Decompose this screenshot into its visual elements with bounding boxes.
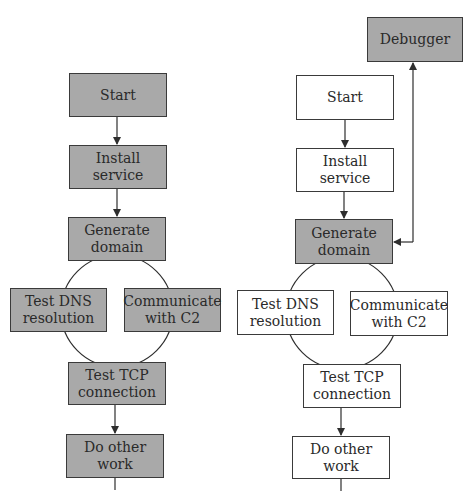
node-label-line1: Install	[323, 153, 368, 170]
left-node-generate-domain: Generate domain	[68, 217, 166, 261]
node-label-line1: Install	[96, 150, 141, 167]
node-label-line1: Do other	[84, 439, 146, 456]
right-node-debugger: Debugger	[367, 17, 463, 62]
node-label-line2: connection	[313, 386, 391, 403]
node-label-line2: with C2	[145, 310, 200, 327]
node-label-line1: Generate	[311, 225, 377, 242]
node-label: Debugger	[380, 31, 450, 48]
right-node-communicate-c2: Communicate with C2	[350, 291, 448, 336]
node-label-line2: service	[93, 167, 144, 184]
left-node-start: Start	[69, 73, 167, 117]
node-label-line2: work	[97, 456, 133, 473]
node-label-line1: Test DNS	[252, 296, 319, 313]
node-label-line1: Test TCP	[85, 367, 148, 384]
node-label-line1: Test DNS	[25, 293, 92, 310]
right-node-test-tcp: Test TCP connection	[303, 364, 401, 408]
node-label-line2: resolution	[23, 310, 95, 327]
left-node-do-other-work: Do other work	[66, 434, 164, 478]
right-node-generate-domain: Generate domain	[295, 219, 393, 264]
left-node-install-service: Install service	[69, 145, 167, 189]
node-label-line2: with C2	[371, 314, 426, 331]
node-label-line2: domain	[91, 239, 144, 256]
left-node-test-dns: Test DNS resolution	[10, 288, 107, 332]
left-node-communicate-c2: Communicate with C2	[124, 288, 221, 332]
right-node-test-dns: Test DNS resolution	[237, 290, 334, 335]
node-label-line1: Do other	[310, 441, 372, 458]
node-label-line2: connection	[78, 384, 156, 401]
right-node-install-service: Install service	[296, 148, 394, 192]
node-label: Start	[327, 89, 363, 106]
node-label-line2: domain	[318, 242, 371, 259]
right-node-do-other-work: Do other work	[292, 436, 390, 479]
left-node-test-tcp: Test TCP connection	[68, 362, 166, 405]
node-label-line1: Test TCP	[320, 369, 383, 386]
node-label-line2: service	[320, 170, 371, 187]
right-node-start: Start	[296, 75, 394, 120]
node-label-line2: resolution	[250, 313, 322, 330]
node-label-line1: Communicate	[350, 297, 448, 314]
node-label-line2: work	[323, 458, 359, 475]
node-label-line1: Generate	[84, 222, 150, 239]
node-label-line1: Communicate	[123, 293, 221, 310]
node-label: Start	[100, 87, 136, 104]
